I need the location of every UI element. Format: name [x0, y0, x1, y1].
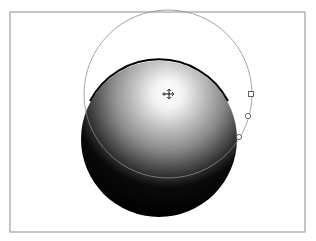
- radius-square-handle[interactable]: [249, 92, 254, 97]
- gradient-canvas[interactable]: [0, 0, 316, 241]
- stop-handle-1[interactable]: [245, 113, 250, 118]
- stop-handle-2[interactable]: [236, 134, 241, 139]
- gradient-sphere[interactable]: [81, 61, 237, 217]
